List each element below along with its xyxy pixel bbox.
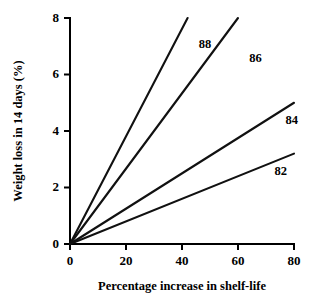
x-axis-title: Percentage increase in shelf-life — [98, 279, 266, 293]
x-tick-label-80: 80 — [288, 253, 301, 268]
series-label-82: 82 — [274, 164, 287, 178]
x-tick-label-60: 60 — [232, 253, 245, 268]
x-axis: 020406080 — [67, 244, 301, 268]
line-chart: 02468 020406080 88868482 Percentage incr… — [0, 0, 313, 298]
y-tick-label-6: 6 — [53, 66, 60, 81]
y-tick-label-2: 2 — [53, 179, 60, 194]
chart-container: 02468 020406080 88868482 Percentage incr… — [0, 0, 313, 298]
series-label-88: 88 — [199, 37, 212, 51]
y-tick-label-8: 8 — [53, 10, 60, 25]
series-label-86: 86 — [249, 51, 262, 65]
series-label-84: 84 — [286, 113, 299, 127]
x-tick-label-20: 20 — [120, 253, 133, 268]
y-tick-label-4: 4 — [53, 123, 60, 138]
series-line-88 — [70, 18, 188, 244]
y-tick-labels: 02468 — [53, 10, 60, 251]
y-axis: 02468 — [53, 10, 71, 251]
x-tick-labels: 020406080 — [67, 253, 301, 268]
x-tick-label-40: 40 — [176, 253, 189, 268]
y-tick-label-0: 0 — [53, 236, 60, 251]
series-line-84 — [70, 103, 294, 244]
y-axis-title: Weight loss in 14 days (%) — [11, 60, 25, 201]
x-tick-label-0: 0 — [67, 253, 74, 268]
